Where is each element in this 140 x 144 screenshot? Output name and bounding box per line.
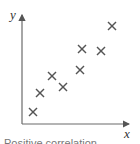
- y-axis-label: y: [8, 7, 16, 22]
- chart-caption: Positive correlation: [4, 137, 136, 144]
- scatter-plot: y x: [0, 0, 140, 144]
- x-marker-icon: [48, 72, 56, 80]
- data-points: [29, 22, 116, 116]
- x-marker-icon: [78, 45, 86, 53]
- x-marker-icon: [36, 89, 44, 97]
- x-marker-icon: [59, 83, 67, 91]
- x-marker-icon: [29, 108, 37, 116]
- x-marker-icon: [97, 47, 105, 55]
- x-marker-icon: [108, 22, 116, 30]
- x-marker-icon: [76, 66, 84, 74]
